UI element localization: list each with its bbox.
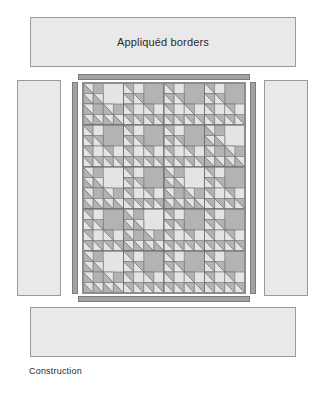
quilt-block	[164, 209, 205, 251]
quilt-block	[205, 251, 246, 293]
quilt-block	[124, 251, 165, 293]
quilt-center	[82, 82, 246, 294]
quilt-block	[164, 167, 205, 209]
panel-left-appliqued-border	[17, 80, 61, 296]
quilt-block	[124, 125, 165, 167]
quilt-block	[205, 209, 246, 251]
quilt-block	[205, 167, 246, 209]
quilt-block	[124, 167, 165, 209]
bottom-sashing-strip	[78, 296, 250, 302]
appliqued-borders-label: Appliquéd borders	[30, 17, 296, 67]
construction-caption: Construction	[29, 366, 82, 376]
panel-bottom-appliqued-border	[30, 307, 296, 357]
quilt-block-grid	[83, 83, 245, 293]
quilt-block	[164, 83, 205, 125]
right-sashing-strip	[250, 82, 256, 294]
quilt-block	[83, 167, 124, 209]
figure-root: Appliquéd borders Construction	[0, 0, 327, 393]
quilt-block	[83, 83, 124, 125]
quilt-block	[124, 83, 165, 125]
quilt-block	[83, 125, 124, 167]
quilt-block	[164, 125, 205, 167]
quilt-block	[205, 83, 246, 125]
quilt-block	[124, 209, 165, 251]
quilt-block	[164, 251, 205, 293]
quilt-block	[83, 209, 124, 251]
top-sashing-strip	[78, 74, 250, 80]
quilt-block	[83, 251, 124, 293]
left-sashing-strip	[72, 82, 78, 294]
quilt-block	[205, 125, 246, 167]
panel-right-appliqued-border	[264, 80, 308, 296]
